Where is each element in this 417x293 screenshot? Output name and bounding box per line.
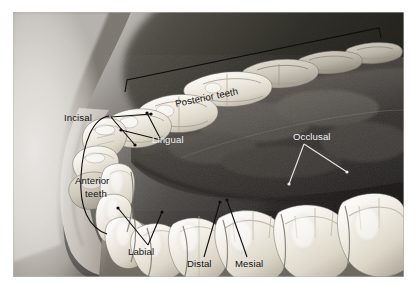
figure-canvas: Posterior teeth Incisal Lingual bbox=[13, 12, 404, 277]
page-root: Posterior teeth Incisal Lingual bbox=[0, 0, 417, 293]
dental-anatomy-figure: Posterior teeth Incisal Lingual bbox=[13, 12, 404, 277]
photo-grain bbox=[13, 12, 404, 277]
